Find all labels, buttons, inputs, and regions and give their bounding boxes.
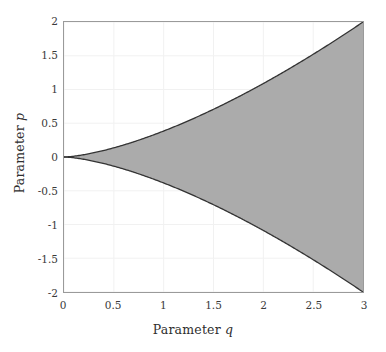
x-axis-title-text: Parameter: [153, 322, 221, 337]
y-axis-title: Parameter p: [12, 17, 27, 289]
plot-canvas: [64, 22, 363, 292]
y-axis-title-symbol: p: [12, 113, 27, 121]
y-tick-label: 1: [2, 84, 58, 95]
y-tick-label: -1: [2, 220, 58, 231]
y-tick-label: -2: [2, 288, 58, 299]
chart-figure: 21.510.50-0.5-1-1.5-2 00.511.522.53 Para…: [0, 0, 386, 352]
y-axis-title-text: Parameter: [12, 125, 27, 193]
y-tick-label: 1.5: [2, 50, 58, 61]
y-tick-label: 2: [2, 16, 58, 27]
x-tick-label: 1: [160, 300, 167, 311]
x-tick-label: 0: [60, 300, 67, 311]
x-tick-label: 1.5: [205, 300, 222, 311]
plot-area: [63, 21, 364, 293]
x-tick-label: 0.5: [105, 300, 122, 311]
x-tick-label: 2: [260, 300, 267, 311]
y-tick-label: 0.5: [2, 118, 58, 129]
x-tick-label: 2.5: [305, 300, 322, 311]
y-axis-title-wrapper: Parameter p: [12, 17, 28, 289]
y-tick-label: -1.5: [2, 254, 58, 265]
y-tick-label: 0: [2, 152, 58, 163]
x-axis-title-symbol: q: [225, 322, 233, 337]
x-axis-tick-labels: 00.511.522.53: [0, 300, 386, 316]
x-axis-title: Parameter q: [0, 322, 386, 337]
y-tick-label: -0.5: [2, 186, 58, 197]
x-tick-label: 3: [361, 300, 368, 311]
